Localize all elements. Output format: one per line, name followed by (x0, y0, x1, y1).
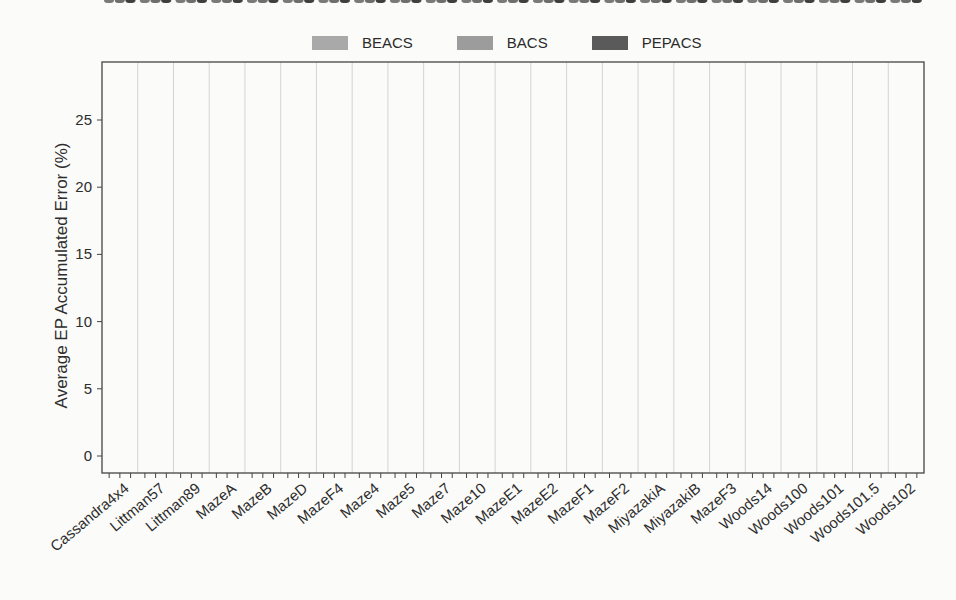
box-beacs (783, 0, 793, 3)
box-pepacs (447, 0, 457, 3)
box-pepacs (662, 0, 672, 3)
y-axis: 0510152025 (75, 111, 102, 464)
box-pepacs (161, 0, 171, 3)
box-pepacs (554, 0, 564, 3)
box-bacs (544, 0, 554, 3)
box-pepacs (912, 0, 922, 3)
box-beacs (890, 0, 900, 3)
box-pepacs (126, 0, 136, 3)
box-beacs (497, 0, 507, 3)
y-axis-title: Average EP Accumulated Error (%) (52, 143, 71, 409)
box-bacs (865, 0, 875, 3)
box-beacs (140, 0, 150, 3)
box-bacs (722, 0, 732, 3)
plot-frame (102, 62, 924, 473)
box-pepacs (876, 0, 886, 3)
box-beacs (676, 0, 686, 3)
box-pepacs (519, 0, 529, 3)
box-bacs (687, 0, 697, 3)
box-bacs (615, 0, 625, 3)
box-bacs (186, 0, 196, 3)
box-beacs (319, 0, 329, 3)
box-bacs (901, 0, 911, 3)
box-bacs (115, 0, 125, 3)
box-pepacs (304, 0, 314, 3)
box-beacs (462, 0, 472, 3)
x-axis: Cassandra4x4Littman57Littman89MazeAMazeB… (47, 473, 918, 554)
x-tick-label: Maze4 (337, 479, 382, 521)
box-pepacs (483, 0, 493, 3)
box-bacs (508, 0, 518, 3)
box-bacs (151, 0, 161, 3)
x-tick-label: Maze5 (372, 479, 417, 521)
box-beacs (712, 0, 722, 3)
box-bacs (472, 0, 482, 3)
box-plot-chart: 0510152025 Cassandra4x4Littman57Littman8… (0, 0, 956, 600)
box-beacs (819, 0, 829, 3)
y-tick-label: 20 (75, 178, 92, 195)
box-bacs (437, 0, 447, 3)
category-separators (138, 62, 889, 473)
y-tick-label: 0 (84, 447, 92, 464)
x-tick-label: MazeA (192, 479, 239, 522)
box-beacs (640, 0, 650, 3)
box-beacs (211, 0, 221, 3)
box-pepacs (197, 0, 207, 3)
box-beacs (533, 0, 543, 3)
box-beacs (247, 0, 257, 3)
box-pepacs (340, 0, 350, 3)
box-bacs (222, 0, 232, 3)
box-beacs (354, 0, 364, 3)
box-pepacs (626, 0, 636, 3)
box-pepacs (769, 0, 779, 3)
y-tick-label: 5 (84, 380, 92, 397)
box-beacs (426, 0, 436, 3)
box-beacs (855, 0, 865, 3)
box-bacs (365, 0, 375, 3)
box-pepacs (805, 0, 815, 3)
box-bacs (258, 0, 268, 3)
box-pepacs (733, 0, 743, 3)
box-bacs (830, 0, 840, 3)
box-bacs (758, 0, 768, 3)
box-pepacs (376, 0, 386, 3)
box-beacs (283, 0, 293, 3)
box-beacs (747, 0, 757, 3)
box-pepacs (590, 0, 600, 3)
box-pepacs (269, 0, 279, 3)
box-bacs (651, 0, 661, 3)
box-beacs (104, 0, 114, 3)
box-beacs (176, 0, 186, 3)
y-tick-label: 15 (75, 245, 92, 262)
box-bacs (294, 0, 304, 3)
box-pepacs (697, 0, 707, 3)
box-pepacs (840, 0, 850, 3)
y-tick-label: 10 (75, 313, 92, 330)
box-pepacs (233, 0, 243, 3)
box-bacs (579, 0, 589, 3)
box-beacs (569, 0, 579, 3)
box-pepacs (412, 0, 422, 3)
box-bacs (401, 0, 411, 3)
box-bacs (794, 0, 804, 3)
box-bacs (329, 0, 339, 3)
box-beacs (604, 0, 614, 3)
y-tick-label: 25 (75, 111, 92, 128)
box-beacs (390, 0, 400, 3)
box-plot-marks (104, 0, 922, 3)
